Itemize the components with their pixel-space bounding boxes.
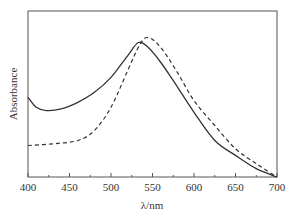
- x-tick-label: 550: [144, 181, 161, 193]
- y-axis-label: Absorbance: [7, 68, 19, 121]
- x-tick-label: 500: [103, 181, 120, 193]
- x-axis-label: λ/nm: [141, 199, 164, 211]
- x-tick-label: 650: [227, 181, 244, 193]
- absorbance-chart: 400450500550600650700 λ/nm Absorbance: [0, 0, 298, 215]
- x-axis-tick-labels: 400450500550600650700: [20, 181, 286, 193]
- x-tick-label: 600: [186, 181, 203, 193]
- x-tick-label: 700: [269, 181, 286, 193]
- plot-frame: [28, 11, 277, 177]
- x-axis-ticks: [28, 173, 277, 177]
- x-tick-label: 400: [20, 181, 37, 193]
- x-tick-label: 450: [61, 181, 78, 193]
- solid-absorbance-curve: [28, 42, 277, 177]
